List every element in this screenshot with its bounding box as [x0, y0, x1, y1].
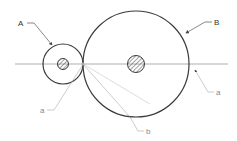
label-B: B [214, 18, 219, 27]
large-shaft-icon [128, 56, 145, 73]
leader-b [186, 22, 212, 33]
leader-b [130, 117, 144, 131]
small-shaft-icon [58, 59, 69, 70]
leader-a-right [195, 70, 214, 92]
label-b: b [146, 127, 151, 136]
diagram-canvas: A B a a b [0, 0, 237, 141]
label-a-left: a [40, 106, 45, 115]
label-A: A [18, 19, 24, 28]
leader-a-left [47, 66, 82, 110]
label-a-right: a [216, 88, 221, 97]
leader-a [27, 23, 52, 45]
